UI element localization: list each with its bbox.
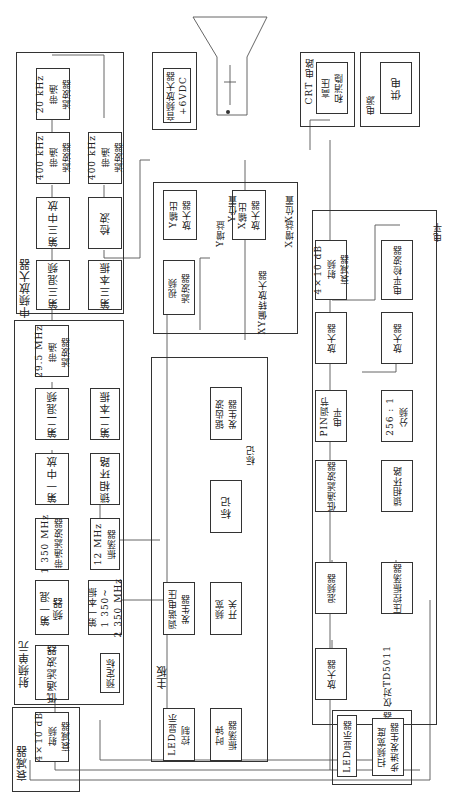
led-control-block: LED显示 控制 (163, 708, 195, 761)
divider-256-block: 256 : 1 分频 (381, 390, 413, 442)
mixer3-block: 第三混频 (36, 260, 70, 310)
level-detector-block: 电平检波器 (381, 240, 413, 300)
hv-blanking-block: 高压 和消隐 (316, 62, 348, 114)
lowpass2-block: 低通滤波器 (315, 460, 347, 512)
osc12-block: 12 MHz 振荡器 (90, 518, 120, 570)
detector-block: 检波 (88, 197, 122, 249)
mixer-block: 混频器 (315, 562, 347, 614)
sawtooth-block: 锯齿波 发生器 (210, 387, 242, 440)
rf-attenuator-block: 4×10 dB 射频 衰减器 (35, 712, 69, 762)
if1-block: 第一中放 (35, 453, 69, 505)
tuning-voltage-block: 调谐电压 发生器 (163, 582, 195, 635)
amp-in-block: 放大器 (315, 648, 347, 700)
power-title: 电源 (363, 95, 376, 115)
amp-a-block: 放大器 (315, 312, 347, 364)
pin-level-block: PIN调节 电平 (315, 390, 347, 442)
xy-amplifier-title: XY偏转放大器 (255, 270, 268, 334)
vco-block: 压控振荡器 (381, 562, 413, 614)
marker-pot-label: 标记 (243, 445, 256, 465)
lo3-block: 第三本振 (88, 260, 122, 310)
x-position-label: X位置 (282, 195, 295, 222)
span-switch-block: 频宽 开关 (210, 582, 242, 635)
amp-b-block: 放大器 (381, 312, 413, 364)
attenuator-title: 衰减器 (15, 745, 31, 781)
video-filter-block: 视频 滤波器 (163, 260, 195, 315)
audio-amp-block: 音频放大器 +6VDC (163, 68, 191, 123)
y-gain-label: Y增益 (213, 220, 226, 247)
y-output-block: Y输出 放大器 (163, 190, 197, 240)
bpf-400a-block: 400 kHz 带通 滤波器 (36, 132, 70, 184)
preset-block: 预定标 (100, 653, 120, 693)
mixer1-block: 第一混 频器 (35, 580, 69, 635)
pll2-block: 锁相环路 (381, 460, 413, 512)
bpf-29.5-block: 29.5 MHz 带通 滤波器 (35, 325, 69, 377)
if3-block: 第三中放 (36, 197, 70, 249)
bpf-20-block: 20 kHz 带通 滤波器 (36, 68, 70, 120)
y-position-label: Y位置 (225, 195, 238, 222)
led-display-block: LED显示器 (337, 715, 357, 777)
lowpass-block: 低通滤波器 (35, 645, 69, 700)
if-amplifier-title: 中频放大器 (18, 258, 34, 318)
crt-title: CRT 电路 (302, 58, 315, 104)
mainboard-title: 主板 (155, 665, 171, 689)
sweep-step-block: 扫频宽度 步进发生器 (372, 718, 404, 776)
bpf-1350-block: 1 350 MHz 带通滤波器 (35, 518, 69, 570)
x-gain-label: X增益 (282, 220, 295, 247)
rf-unit-title: 射频单元 (17, 640, 33, 688)
clock-osc-block: 时钟 振荡器 (210, 708, 242, 761)
mixer2-block: 第二混频 (35, 388, 69, 440)
lo2-block: 第二本振 (90, 388, 120, 440)
pll-block: 锁相环路 (90, 453, 120, 505)
lo1-block: 第一本振 1 350~ 2 350 MHz (88, 580, 122, 635)
level-control-label: 电平 (430, 222, 443, 242)
marker-block: 标记 (210, 480, 242, 533)
power-supply-block: 供电 (380, 62, 412, 114)
rf-attenuator2-block: 4×10 dB 射频 衰减器 (315, 240, 347, 300)
bpf-400b-block: 400 kHz 带通 滤波器 (88, 132, 122, 184)
